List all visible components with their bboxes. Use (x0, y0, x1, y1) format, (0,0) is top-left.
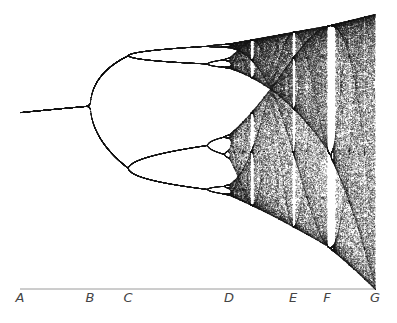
point-cloud-canvas (0, 0, 397, 323)
